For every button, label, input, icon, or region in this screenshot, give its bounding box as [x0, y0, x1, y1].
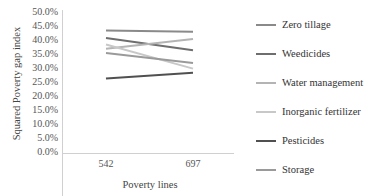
legend-item: Zero tillage — [256, 10, 372, 39]
legend-swatch — [256, 24, 276, 26]
legend-swatch — [256, 140, 276, 142]
legend-item: Storage — [256, 155, 372, 184]
line-chart: Squared Poverty gap index 50.0% 45.0% 40… — [0, 0, 372, 196]
legend: Zero tillage Weedicides Water management… — [256, 10, 372, 184]
series-line — [106, 30, 193, 31]
legend-swatch — [256, 53, 276, 55]
legend-item: Weedicides — [256, 39, 372, 68]
legend-item: Water management — [256, 68, 372, 97]
x-tick: 697 — [173, 158, 213, 169]
legend-item: Pesticides — [256, 126, 372, 155]
legend-item: Inorganic fertilizer — [256, 97, 372, 126]
series-lines — [106, 30, 193, 78]
x-tick: 542 — [86, 158, 126, 169]
legend-swatch — [256, 82, 276, 84]
legend-swatch — [256, 169, 276, 171]
series-line — [106, 53, 193, 63]
series-line — [106, 73, 193, 79]
legend-swatch — [256, 111, 276, 113]
x-axis-label: Poverty lines — [100, 179, 200, 190]
